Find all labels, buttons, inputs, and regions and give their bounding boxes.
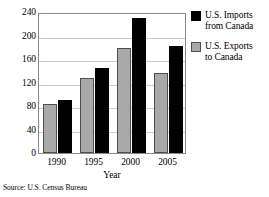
legend-imports-line1: U.S. Imports [205,10,253,20]
bar-exports [43,104,57,153]
y-axis-tick-label: 80 [6,102,36,112]
gray-square-icon [191,42,201,52]
y-axis-tick-label: 200 [6,32,36,42]
legend-item-imports: U.S. Imports from Canada [191,10,269,32]
y-axis-tick-label: 0 [6,149,36,159]
x-axis-tick-label: 2000 [111,157,151,167]
legend-imports-line2: from Canada [205,21,253,31]
bar-chart-figure: 04080120160200240 1990199520002005 Year … [0,0,269,197]
bar-imports [132,18,146,153]
plot-area [38,13,186,154]
black-square-icon [191,11,201,21]
y-axis-tick-label: 40 [6,126,36,136]
x-axis-tick-label: 1990 [37,157,77,167]
gridline [39,38,185,39]
x-axis-tick-label: 2005 [148,157,188,167]
x-axis-tick-label: 1995 [74,157,114,167]
bar-exports [80,78,94,153]
legend-exports-line1: U.S. Exports [205,41,253,51]
y-axis-tick-label: 160 [6,55,36,65]
source-note: Source: U.S. Census Bureau [3,183,87,192]
legend-item-exports: U.S. Exports to Canada [191,41,269,63]
gridline [39,61,185,62]
y-axis-tick-label: 240 [6,8,36,18]
legend-item-exports-label: U.S. Exports to Canada [205,41,253,63]
chart-legend: U.S. Imports from Canada U.S. Exports to… [191,10,269,72]
bar-imports [58,100,72,153]
bar-exports [154,73,168,153]
x-axis-title: Year [38,170,186,180]
bar-exports [117,48,131,153]
bar-imports [169,46,183,154]
legend-exports-line2: to Canada [205,52,242,62]
legend-item-imports-label: U.S. Imports from Canada [205,10,253,32]
bar-imports [95,68,109,153]
y-axis-tick-label: 120 [6,79,36,89]
